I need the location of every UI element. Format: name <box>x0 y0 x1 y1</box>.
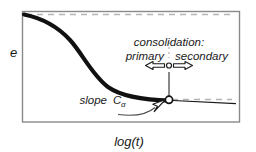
consolidation-heading: consolidation: <box>134 36 204 48</box>
consolidation-curve-figure: e log(t) consolidation: primary secondar… <box>0 0 256 152</box>
secondary-phase-label: secondary <box>175 50 229 62</box>
end-of-primary-marker <box>165 96 172 103</box>
primary-phase-label: primary <box>125 50 166 62</box>
slope-subscript: α <box>121 100 126 109</box>
x-axis-label: log(t) <box>114 134 144 149</box>
figure-background <box>0 0 256 152</box>
slope-label: slope <box>80 94 108 106</box>
y-axis-label: e <box>10 45 17 60</box>
phase-split-node-marker <box>167 63 172 68</box>
